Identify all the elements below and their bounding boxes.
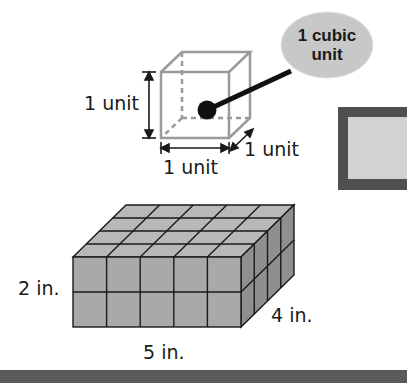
callout-line [205,71,291,111]
prism-height-label: 2 in. [18,279,60,298]
diagram-canvas: 1 cubic unit 1 unit 1 unit 1 unit 2 in. … [0,0,407,383]
callout-text: 1 cubic unit [282,26,372,64]
center-dot [198,101,217,120]
callout-line2: unit [282,45,372,64]
prism-depth-label: 4 in. [271,306,313,325]
cube-height-label: 1 unit [84,94,139,113]
cube-width-label: 1 unit [163,158,218,177]
rectangular-prism [73,205,294,327]
prism-length-label: 5 in. [143,343,185,362]
cube-depth-label: 1 unit [244,140,299,159]
framed-box [338,107,407,190]
callout-line1: 1 cubic [282,26,372,45]
bottom-bar [0,370,407,383]
cube-dimension-arrows [142,72,253,154]
